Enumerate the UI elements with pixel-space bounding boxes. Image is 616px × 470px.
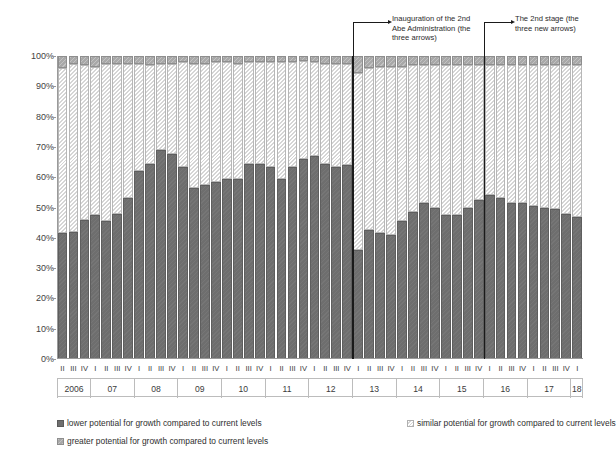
- bar-column: [188, 56, 199, 359]
- x-axis-quarter-label: IV: [517, 359, 528, 378]
- bar-segment-similar: [441, 65, 451, 215]
- bar-segment-similar: [529, 65, 539, 206]
- x-axis-quarter-label: II: [408, 359, 419, 378]
- bar-segment-lower: [80, 220, 90, 359]
- bar-segment-greater: [507, 56, 517, 65]
- bar-segment-similar: [123, 64, 133, 199]
- x-axis-quarter-label: II: [451, 359, 462, 378]
- bar-segment-similar: [518, 65, 528, 203]
- y-axis-tick: [52, 56, 56, 57]
- y-axis-tick-label: 20%: [12, 293, 54, 303]
- bar-column: [386, 56, 397, 359]
- bar-segment-lower: [277, 179, 287, 359]
- bar-segment-similar: [485, 65, 495, 195]
- x-axis-quarter-label: IV: [342, 359, 353, 378]
- x-axis-quarter-label: III: [287, 359, 298, 378]
- x-axis-quarter-label: I: [309, 359, 320, 378]
- bar-segment-greater: [419, 56, 429, 65]
- bar-column: [331, 56, 342, 359]
- bar-segment-greater: [189, 56, 199, 64]
- x-axis-quarter-label: III: [375, 359, 386, 378]
- bar-column: [156, 56, 167, 359]
- bar-segment-greater: [430, 56, 440, 65]
- x-axis: IIIIIIVIIIIIIIVIIIIIIIVIIIIIIIVIIIIIIIVI…: [57, 359, 583, 399]
- bar-segment-greater: [474, 56, 484, 65]
- bar-segment-greater: [518, 56, 528, 65]
- bar-segment-lower: [233, 179, 243, 359]
- bar-segment-lower: [90, 215, 100, 359]
- bar-segment-lower: [167, 154, 177, 359]
- event-divider-line: [352, 56, 353, 359]
- y-axis-tick-label: 40%: [12, 233, 54, 243]
- bar-segment-greater: [167, 56, 177, 64]
- bar-column: [123, 56, 134, 359]
- x-axis-quarter-label: III: [112, 359, 123, 378]
- bar-column: [506, 56, 517, 359]
- bar-segment-lower: [561, 214, 571, 359]
- x-axis-quarter-label: I: [134, 359, 145, 378]
- bar-column: [210, 56, 221, 359]
- y-axis: 0%10%20%30%40%50%60%70%80%90%100%: [8, 56, 54, 359]
- bar-segment-lower: [69, 232, 79, 359]
- bar-column: [68, 56, 79, 359]
- bar-segment-similar: [408, 65, 418, 212]
- y-axis-tick-label: 0%: [12, 354, 54, 364]
- bar-segment-similar: [211, 62, 221, 182]
- x-axis-quarter-label: I: [221, 359, 232, 378]
- bar-segment-similar: [386, 67, 396, 235]
- legend-item: greater potential for growth compared to…: [57, 436, 268, 446]
- bar-segment-greater: [123, 56, 133, 64]
- legend-item: lower potential for growth compared to c…: [57, 418, 262, 428]
- bar-segment-similar: [353, 73, 363, 250]
- bar-column: [79, 56, 90, 359]
- bar-segment-greater: [529, 56, 539, 65]
- x-axis-year-label: 10: [222, 379, 266, 398]
- bar-segment-greater: [397, 56, 407, 67]
- bar-segment-similar: [463, 65, 473, 207]
- bar-column: [462, 56, 473, 359]
- bar-column: [134, 56, 145, 359]
- x-axis-quarter-label: I: [265, 359, 276, 378]
- x-axis-quarter-label: II: [145, 359, 156, 378]
- bar-segment-similar: [167, 64, 177, 155]
- bar-segment-greater: [485, 56, 495, 65]
- y-axis-tick-label: 90%: [12, 81, 54, 91]
- x-axis-quarter-label: I: [484, 359, 495, 378]
- legend-swatch-light: [407, 420, 414, 427]
- y-axis-tick: [52, 177, 56, 178]
- x-axis-quarter-label: II: [495, 359, 506, 378]
- bar-column: [167, 56, 178, 359]
- bar-segment-greater: [452, 56, 462, 65]
- x-axis-quarter-label: IV: [254, 359, 265, 378]
- bar-series-container: [57, 56, 583, 359]
- x-axis-quarter-label: II: [232, 359, 243, 378]
- bar-column: [440, 56, 451, 359]
- bar-segment-lower: [342, 165, 352, 359]
- bar-column: [265, 56, 276, 359]
- bar-segment-similar: [112, 64, 122, 214]
- bar-column: [572, 56, 583, 359]
- bar-segment-similar: [178, 62, 188, 167]
- y-axis-tick: [52, 86, 56, 87]
- y-axis-tick-label: 10%: [12, 324, 54, 334]
- bar-segment-similar: [331, 64, 341, 167]
- quarter-label-row: IIIIIIVIIIIIIIVIIIIIIIVIIIIIIIVIIIIIIIVI…: [57, 359, 583, 378]
- bar-segment-greater: [331, 56, 341, 64]
- x-axis-year-label: 08: [135, 379, 179, 398]
- bar-segment-greater: [572, 56, 582, 65]
- bar-segment-lower: [496, 198, 506, 359]
- bar-segment-greater: [69, 56, 79, 64]
- x-axis-year-label: 13: [353, 379, 397, 398]
- bar-segment-lower: [353, 250, 363, 359]
- bar-segment-greater: [408, 56, 418, 65]
- bar-segment-lower: [375, 233, 385, 359]
- x-axis-quarter-label: II: [539, 359, 550, 378]
- y-axis-tick: [52, 208, 56, 209]
- bar-column: [90, 56, 101, 359]
- bar-segment-similar: [507, 65, 517, 203]
- event-annotation-text: The 2nd stage (the three new arrows): [515, 14, 597, 33]
- bar-segment-similar: [90, 67, 100, 215]
- bar-segment-similar: [244, 62, 254, 164]
- bar-column: [309, 56, 320, 359]
